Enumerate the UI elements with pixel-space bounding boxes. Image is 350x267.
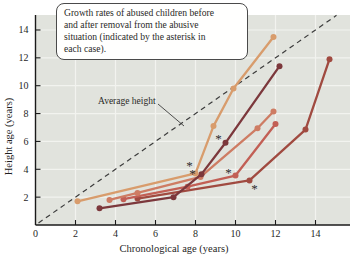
- y-tick-label: 6: [24, 136, 29, 147]
- annotation-box: Growth rates of abused children before a…: [56, 3, 248, 60]
- x-tick-label: 2: [73, 228, 78, 239]
- data-point-child-4: [199, 171, 205, 177]
- data-point-child-1: [271, 34, 277, 40]
- y-tick-label: 10: [19, 80, 29, 91]
- data-point-child-1: [231, 85, 237, 91]
- x-tick-label: 4: [113, 228, 118, 239]
- x-tick-label: 10: [231, 228, 241, 239]
- removal-asterisk-child-1: *: [186, 158, 193, 173]
- x-tick-label: 12: [271, 228, 281, 239]
- data-point-child-3: [273, 121, 279, 127]
- data-point-child-4: [171, 194, 177, 200]
- x-tick-label: 14: [311, 228, 321, 239]
- data-point-child-5: [303, 127, 309, 133]
- data-point-child-2: [255, 125, 261, 131]
- data-point-child-4: [97, 205, 103, 211]
- removal-asterisk-child-4: *: [215, 131, 222, 146]
- data-point-child-4: [223, 140, 229, 146]
- data-point-child-2: [271, 108, 277, 114]
- data-point-child-2: [107, 197, 113, 203]
- y-tick-label: 14: [19, 24, 29, 35]
- removal-asterisk-child-3: *: [225, 165, 232, 180]
- y-axis-title: Height age (years): [3, 69, 14, 205]
- data-point-child-3: [233, 173, 239, 179]
- y-tick-label: 2: [24, 192, 29, 203]
- removal-asterisk-child-5: *: [251, 181, 258, 196]
- data-point-child-1: [211, 123, 217, 129]
- x-tick-label: 8: [193, 228, 198, 239]
- data-point-child-1: [75, 198, 81, 204]
- x-axis-title-text: Chronological age (years): [119, 243, 228, 254]
- y-tick-label: 12: [19, 52, 29, 63]
- y-tick-label: 4: [24, 164, 29, 175]
- data-point-child-4: [277, 63, 283, 69]
- average-height-label: Average height: [98, 96, 156, 106]
- growth-chart: *****024681012142468101214 Growth rates …: [0, 0, 350, 267]
- data-point-child-2: [135, 190, 141, 196]
- x-tick-label: 6: [153, 228, 158, 239]
- y-tick-label: 8: [24, 108, 29, 119]
- x-axis-title: Chronological age (years): [0, 243, 350, 254]
- data-point-child-5: [327, 56, 333, 62]
- x-tick-label: 0: [33, 228, 38, 239]
